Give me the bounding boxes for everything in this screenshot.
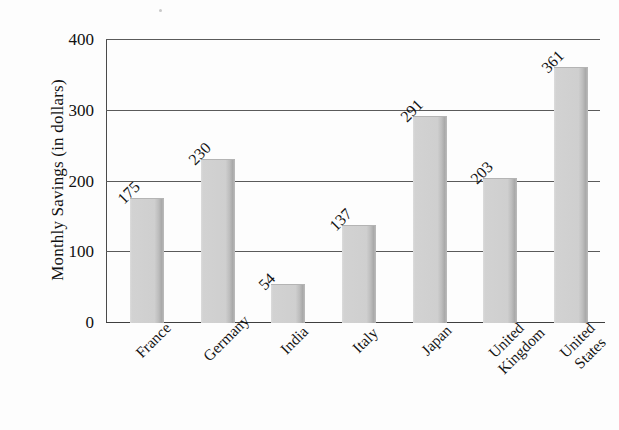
bar — [342, 225, 376, 323]
bar — [201, 159, 235, 323]
y-axis-tick-label: 100 — [50, 243, 94, 260]
bar — [413, 116, 447, 323]
chart-page: Monthly Savings (in dollars) 01002003004… — [0, 0, 619, 430]
bar — [554, 67, 588, 323]
gridline — [106, 110, 600, 111]
plot-area: 17523054137291203361 — [106, 39, 600, 322]
gridline — [106, 39, 600, 40]
bar — [130, 198, 164, 323]
bar — [483, 178, 517, 323]
y-axis-tick-label: 0 — [50, 314, 94, 331]
y-axis-tick-label: 200 — [50, 173, 94, 190]
y-axis-tick-label: 300 — [50, 102, 94, 119]
gridline — [106, 181, 600, 182]
bar — [271, 284, 305, 323]
y-axis-tick-label: 400 — [50, 31, 94, 48]
